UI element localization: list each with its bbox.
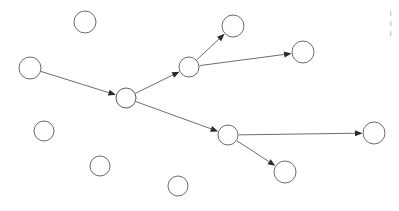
edge-branch-upper-to-right-line	[199, 54, 284, 65]
edge-source-to-hub	[41, 71, 116, 95]
edge-branch-lower-to-bottom	[237, 141, 276, 166]
edge-hub-to-branch-lower	[136, 102, 218, 132]
leaf-node-top[interactable]	[222, 15, 244, 37]
nodes-layer	[19, 11, 385, 196]
edge-branch-lower-to-bottom-line	[237, 141, 269, 162]
isolated-node-left[interactable]	[34, 121, 54, 141]
branch-node-lower[interactable]	[218, 125, 238, 145]
branch-node-upper[interactable]	[179, 57, 199, 77]
edge-branch-lower-to-far-line	[239, 133, 356, 135]
source-node-left[interactable]	[19, 57, 41, 79]
graph-svg	[0, 0, 399, 211]
leaf-node-upper-right[interactable]	[292, 41, 314, 63]
isolated-node-bottom-b[interactable]	[168, 176, 188, 196]
edge-branch-lower-to-far-arrowhead-icon	[355, 130, 363, 136]
edge-branch-upper-to-top-line	[197, 39, 219, 60]
edge-hub-to-branch-upper-line	[135, 75, 172, 93]
leaf-node-bottom-right[interactable]	[274, 161, 296, 183]
clipped-caption-line-1: |	[390, 8, 399, 18]
clipped-caption-right-edge: | | |	[390, 8, 399, 38]
hub-node-center[interactable]	[116, 88, 136, 108]
edge-branch-upper-to-right-arrowhead-icon	[284, 52, 292, 58]
edge-hub-to-branch-upper	[135, 72, 179, 94]
edge-branch-upper-to-top	[197, 34, 225, 60]
isolated-node-top-left[interactable]	[74, 11, 96, 33]
diagram-canvas: | | |	[0, 0, 399, 211]
clipped-caption-line-2: |	[390, 18, 399, 28]
edge-hub-to-branch-lower-line	[136, 102, 211, 129]
edge-source-to-hub-line	[41, 71, 109, 92]
edge-source-to-hub-arrowhead-icon	[108, 90, 116, 96]
leaf-node-far-right[interactable]	[363, 122, 385, 144]
edge-hub-to-branch-lower-arrowhead-icon	[210, 126, 218, 132]
edge-branch-upper-to-right	[199, 52, 291, 66]
clipped-caption-line-3: |	[390, 28, 399, 38]
isolated-node-bottom-a[interactable]	[90, 156, 110, 176]
edge-branch-lower-to-bottom-arrowhead-icon	[267, 159, 275, 166]
edge-hub-to-branch-upper-arrowhead-icon	[172, 72, 180, 78]
edge-branch-lower-to-far	[239, 130, 363, 136]
